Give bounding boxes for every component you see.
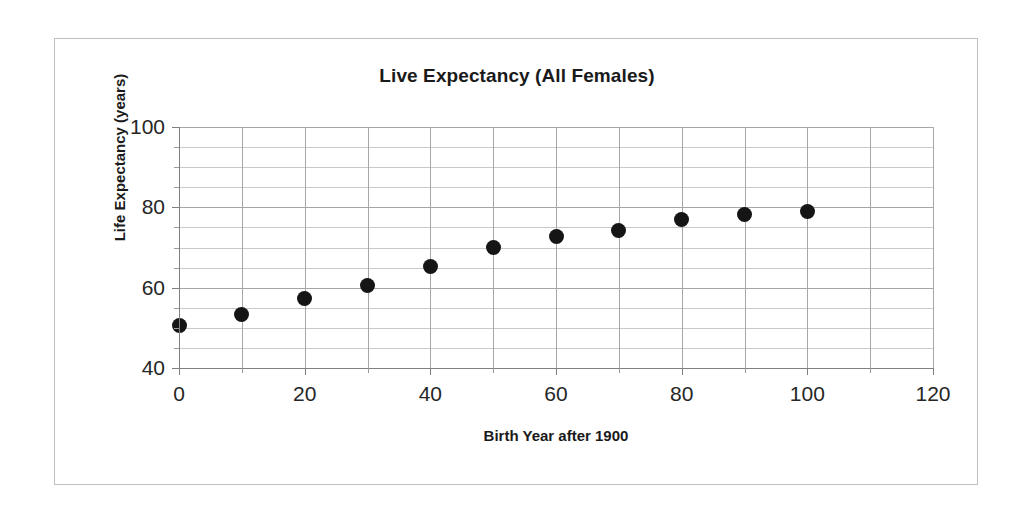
gridline-vertical xyxy=(430,127,431,368)
y-tick-minor xyxy=(174,227,179,228)
x-tick-label: 40 xyxy=(395,382,465,406)
x-tick-minor xyxy=(870,368,871,373)
gridline-vertical xyxy=(933,127,934,368)
gridline-vertical xyxy=(368,127,369,368)
x-tick-label: 120 xyxy=(898,382,968,406)
x-tick-major xyxy=(807,368,808,375)
y-tick-major xyxy=(172,207,179,208)
x-tick-label: 60 xyxy=(521,382,591,406)
gridline-vertical xyxy=(305,127,306,368)
x-tick-minor xyxy=(368,368,369,373)
gridline-vertical xyxy=(745,127,746,368)
data-point[interactable] xyxy=(486,240,501,255)
x-tick-major xyxy=(430,368,431,375)
gridline-vertical xyxy=(242,127,243,368)
gridline-vertical xyxy=(682,127,683,368)
x-tick-minor xyxy=(619,368,620,373)
y-tick-minor xyxy=(174,268,179,269)
gridline-vertical xyxy=(870,127,871,368)
x-tick-major xyxy=(305,368,306,375)
x-tick-label: 80 xyxy=(647,382,717,406)
x-tick-minor xyxy=(745,368,746,373)
x-tick-label: 100 xyxy=(772,382,842,406)
data-point[interactable] xyxy=(297,291,312,306)
data-point[interactable] xyxy=(423,259,438,274)
y-tick-major xyxy=(172,368,179,369)
y-axis-title: Life Expectancy (years) xyxy=(111,38,128,278)
x-tick-major xyxy=(682,368,683,375)
y-tick-major xyxy=(172,127,179,128)
x-tick-major xyxy=(179,368,180,375)
data-point[interactable] xyxy=(549,229,564,244)
y-tick-minor xyxy=(174,348,179,349)
x-tick-label: 0 xyxy=(144,382,214,406)
y-tick-minor xyxy=(174,308,179,309)
y-tick-label: 40 xyxy=(105,356,165,380)
data-point[interactable] xyxy=(674,212,689,227)
y-tick-minor xyxy=(174,187,179,188)
gridline-vertical xyxy=(619,127,620,368)
chart-title: Live Expectancy (All Females) xyxy=(55,65,979,87)
x-tick-minor xyxy=(493,368,494,373)
chart-frame: Live Expectancy (All Females) 100806040 … xyxy=(54,38,978,485)
gridline-vertical xyxy=(556,127,557,368)
plot-area xyxy=(179,127,933,368)
y-tick-minor xyxy=(174,328,179,329)
x-tick-major xyxy=(556,368,557,375)
y-axis-line xyxy=(179,127,180,368)
data-point[interactable] xyxy=(234,307,249,322)
chart-page: Live Expectancy (All Females) 100806040 … xyxy=(0,0,1032,508)
gridline-vertical xyxy=(807,127,808,368)
data-point[interactable] xyxy=(611,223,626,238)
x-axis-title: Birth Year after 1900 xyxy=(179,427,933,444)
x-tick-label: 20 xyxy=(270,382,340,406)
y-tick-minor xyxy=(174,147,179,148)
y-tick-minor xyxy=(174,248,179,249)
y-tick-minor xyxy=(174,167,179,168)
x-tick-minor xyxy=(242,368,243,373)
y-tick-major xyxy=(172,288,179,289)
y-tick-label: 60 xyxy=(105,276,165,300)
data-point[interactable] xyxy=(800,204,815,219)
data-point[interactable] xyxy=(737,207,752,222)
x-tick-major xyxy=(933,368,934,375)
data-point[interactable] xyxy=(360,278,375,293)
